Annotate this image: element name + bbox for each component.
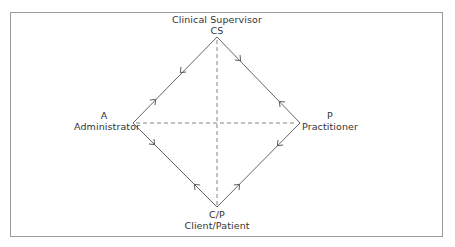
edge-cs-a — [133, 37, 217, 123]
node-title: Client/Patient — [177, 220, 257, 231]
node-code: C/P — [177, 209, 257, 220]
node-administrator: A Administrator — [74, 110, 134, 132]
node-code: CS — [167, 25, 267, 36]
node-client-patient: C/P Client/Patient — [177, 209, 257, 231]
node-code: P — [298, 110, 362, 121]
node-title: Practitioner — [298, 121, 362, 132]
edge-cs-p — [217, 37, 300, 123]
node-clinical-supervisor: Clinical Supervisor CS — [167, 14, 267, 36]
node-code: A — [74, 110, 134, 121]
edge-p-cp — [217, 123, 300, 207]
node-title: Administrator — [74, 121, 134, 132]
arrow-icon-cs-to-p — [235, 55, 240, 60]
node-practitioner: P Practitioner — [298, 110, 362, 132]
node-title: Clinical Supervisor — [167, 14, 267, 25]
edge-a-cp — [133, 123, 217, 207]
